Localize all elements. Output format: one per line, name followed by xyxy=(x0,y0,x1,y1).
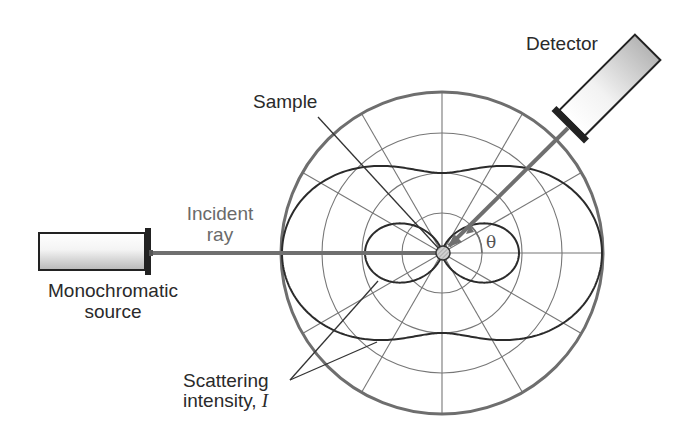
sample-label: Sample xyxy=(253,92,317,112)
scattering-label-line2: intensity, I xyxy=(183,391,268,411)
scattering-label-text: intensity, xyxy=(183,390,257,411)
source-label-line1: Monochromatic xyxy=(30,281,196,301)
scattered-beam xyxy=(449,128,568,246)
theta-label: θ xyxy=(486,232,496,252)
source-label-line2: source xyxy=(30,302,196,322)
scattering-diagram: Detector Sample Incident ray Monochromat… xyxy=(0,0,695,438)
intensity-symbol: I xyxy=(262,390,268,411)
sample-icon xyxy=(436,246,450,260)
incident-ray-label-line1: Incident xyxy=(172,204,268,224)
detector-label: Detector xyxy=(526,34,598,54)
diagram-svg xyxy=(0,0,695,438)
scattering-pointer-line-outer xyxy=(290,342,377,380)
incident-ray-label-line2: ray xyxy=(172,225,268,245)
scattering-pointer-line-inner xyxy=(290,281,378,380)
scattering-label-line1: Scattering xyxy=(183,371,269,391)
monochromatic-source-icon xyxy=(39,228,153,275)
